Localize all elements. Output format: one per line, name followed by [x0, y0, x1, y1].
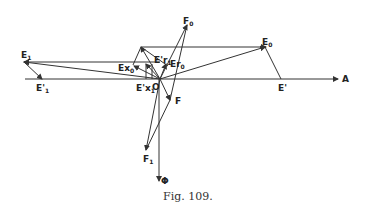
vector-f: [160, 79, 170, 100]
label-e0: E0: [262, 37, 272, 48]
label-er0: Er0: [170, 59, 185, 70]
label-e1: E1: [21, 50, 31, 61]
label-a: A: [342, 74, 349, 84]
vector-diagram: E1 E'1 E0 E' A Ex0 E'x1 O E'r1 Er0 F0 F …: [0, 0, 369, 206]
label-er1prime: E'r1: [154, 55, 172, 66]
label-e1prime: E'1: [36, 83, 49, 94]
f-to-f1-line: [146, 100, 170, 150]
label-ex0: Ex0: [118, 63, 134, 74]
vector-f0: [160, 25, 187, 79]
label-phi: Φ: [161, 176, 169, 186]
vector-e1: [24, 62, 160, 79]
label-f: F: [175, 96, 181, 106]
figure-caption: Fig. 109.: [163, 190, 213, 203]
e0-to-eprime-line: [265, 47, 281, 79]
label-origin: O: [152, 82, 160, 92]
e1-to-e1prime-line: [24, 62, 42, 79]
label-eprime: E': [278, 83, 287, 93]
label-f1: F1: [143, 154, 153, 165]
label-f0: F0: [183, 16, 193, 27]
